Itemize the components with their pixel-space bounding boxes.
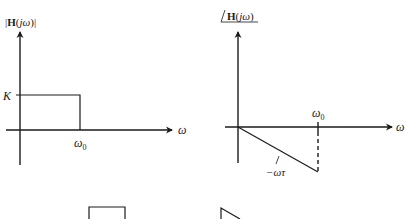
- k-tick-label: K: [2, 89, 12, 103]
- partial-rect-shape: [89, 207, 125, 219]
- magnitude-plot: |H(jω)| K ω ω0: [2, 16, 186, 165]
- magnitude-title: |H(jω)|: [5, 16, 36, 29]
- magnitude-x-axis-label: ω: [178, 123, 186, 137]
- slope-leader: [276, 156, 279, 164]
- figure: |H(jω)| K ω ω0 H(jω) ω ω0 −ωτ: [0, 0, 407, 219]
- omega0-tick-label: ω0: [74, 136, 86, 152]
- slope-label: −ωτ: [266, 166, 286, 178]
- partial-triangle-shape: [221, 208, 240, 219]
- phase-omega0-label: ω0: [312, 106, 324, 122]
- diagram-svg: |H(jω)| K ω ω0 H(jω) ω ω0 −ωτ: [0, 0, 407, 219]
- bottom-partial-figures: [89, 207, 240, 219]
- magnitude-response-curve: [16, 95, 80, 130]
- phase-x-axis-label: ω: [396, 120, 404, 134]
- phase-title: H(jω): [227, 10, 254, 23]
- phase-title-angle-slash: [221, 10, 225, 22]
- phase-plot: H(jω) ω ω0 −ωτ: [221, 10, 404, 178]
